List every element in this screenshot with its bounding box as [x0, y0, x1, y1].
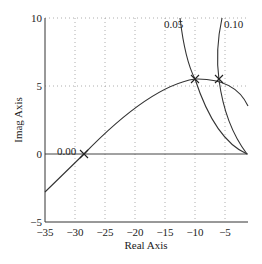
svg-text:5: 5 — [37, 80, 43, 92]
svg-text:−20: −20 — [126, 226, 144, 238]
root-locus-chart: 0.00 0.05 0.10 10 5 0 −5 −35 −30 −25 −20… — [0, 0, 262, 264]
svg-text:10: 10 — [31, 12, 43, 24]
pole-markers — [80, 75, 223, 158]
locus-0.00 — [45, 79, 248, 192]
svg-text:−10: −10 — [186, 226, 204, 238]
svg-text:−30: −30 — [66, 226, 84, 238]
svg-text:−25: −25 — [96, 226, 114, 238]
x-tick-labels: −35 −30 −25 −20 −15 −10 −5 — [36, 226, 231, 238]
svg-text:−35: −35 — [36, 226, 54, 238]
svg-text:0: 0 — [37, 148, 43, 160]
annotation-0.10: 0.10 — [224, 18, 244, 30]
svg-text:−5: −5 — [219, 226, 231, 238]
y-axis-label: Imag Axis — [12, 97, 24, 143]
svg-text:−15: −15 — [156, 226, 174, 238]
y-tick-labels: 10 5 0 −5 — [30, 12, 42, 228]
annotation-0.05: 0.05 — [164, 18, 184, 30]
annotation-0.00: 0.00 — [57, 145, 77, 157]
x-axis-label: Real Axis — [124, 239, 167, 251]
